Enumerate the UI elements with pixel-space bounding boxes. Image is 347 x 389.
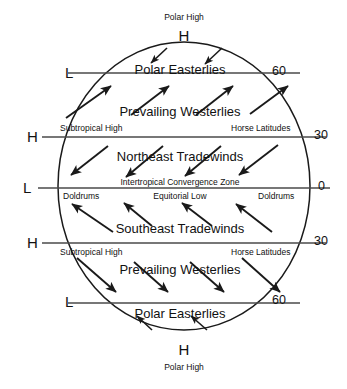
band-label-southeast-tradewinds: Southeast Tradewinds xyxy=(116,222,245,235)
latitude-label-60n: 60 xyxy=(272,65,286,78)
band-label-prevailing-westerlies-south: Prevailing Westerlies xyxy=(119,263,240,276)
latitude-label-equator: 0 xyxy=(318,180,325,193)
pressure-letter-30s-high: H xyxy=(27,235,38,250)
pressure-letter-60s-low: L xyxy=(65,294,73,309)
note-doldrums-left: Doldrums xyxy=(63,192,99,201)
pressure-letter-equator-low: L xyxy=(23,180,31,195)
note-horse-latitudes-south: Horse Latitudes xyxy=(231,248,291,257)
latitude-label-30n: 30 xyxy=(314,129,328,142)
top-polar-high-caption: Polar High xyxy=(164,13,204,22)
note-subtropical-high-north: Subtropical High xyxy=(60,124,122,133)
bottom-polar-high-caption: Polar High xyxy=(164,363,204,372)
band-label-polar-easterlies-north: Polar Easterlies xyxy=(134,63,225,76)
band-label-northeast-tradewinds: Northeast Tradewinds xyxy=(117,150,243,163)
note-equatorial-low: Equitorial Low xyxy=(153,192,206,201)
pressure-letter-30n-high: H xyxy=(27,129,38,144)
note-horse-latitudes-north: Horse Latitudes xyxy=(231,124,291,133)
latitude-label-30s: 30 xyxy=(314,235,328,248)
band-label-polar-easterlies-south: Polar Easterlies xyxy=(134,307,225,320)
note-doldrums-right: Doldrums xyxy=(258,192,294,201)
pressure-letter-60n-low: L xyxy=(65,65,73,80)
bottom-pressure-letter-h: H xyxy=(179,342,190,357)
top-pressure-letter-h: H xyxy=(179,28,190,43)
wind-belts-diagram: Polar High H H Polar High L H L H L 60 3… xyxy=(0,0,347,389)
note-intertropical-convergence-zone: Intertropical Convergence Zone xyxy=(120,178,239,187)
note-subtropical-high-south: Subtropical High xyxy=(60,248,122,257)
latitude-label-60s: 60 xyxy=(272,294,286,307)
band-label-prevailing-westerlies-north: Prevailing Westerlies xyxy=(119,105,240,118)
